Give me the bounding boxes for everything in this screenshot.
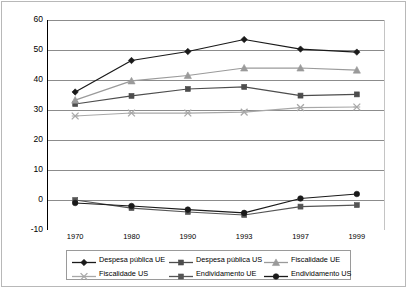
data-point-cross [128,110,135,117]
legend-marker-icon [168,268,194,279]
data-point-square [129,93,134,98]
data-point-cross [184,110,191,117]
data-point-circle [298,196,304,202]
series-line [75,87,357,104]
legend-item[interactable]: Fiscalidade UE [263,252,348,267]
legend-marker-icon [71,254,97,265]
data-point-square [354,92,359,97]
legend-marker-icon [71,268,97,279]
x-axis-tick-label: 1970 [67,232,84,241]
series-4 [72,104,360,120]
series-2 [73,84,360,106]
data-point-square [298,204,303,209]
data-point-circle [185,207,191,213]
plot-area [47,20,385,230]
data-point-square [185,87,190,92]
series-line [75,107,357,116]
data-point-cross [81,273,88,280]
legend-marker-icon [263,268,289,279]
y-axis-tick-label: 20 [34,135,43,144]
legend-item[interactable]: Despesa pública US [168,252,263,267]
legend-item-label: Fiscalidade US [99,268,148,279]
legend-key-svg [263,271,289,282]
chart-legend: Despesa pública UEDespesa pública USFisc… [66,250,351,280]
legend-item-label: Endividamento US [291,268,351,279]
data-point-diamond [185,48,191,54]
legend-item[interactable]: Fiscalidade US [71,266,168,281]
x-axis-tick-label: 1980 [123,232,140,241]
x-axis-tick-label: 1990 [179,232,196,241]
legend-marker-icon [168,254,194,265]
legend-key-svg [168,271,194,282]
data-point-square [298,93,303,98]
data-point-cross [72,113,79,120]
legend-item-label: Fiscalidade UE [291,254,340,265]
legend-item-label: Despesa pública UE [99,254,165,265]
series-line [75,200,357,215]
series-line [75,40,357,93]
x-axis-tick-label: 1993 [236,232,253,241]
data-point-square [242,84,247,89]
data-point-diamond [128,57,134,63]
data-point-diamond [241,36,247,42]
y-axis-tick-label: 10 [34,165,43,174]
legend-marker-icon [263,254,289,265]
legend-row: Despesa pública UEDespesa pública USFisc… [67,252,350,267]
x-axis-tick-label: 1999 [348,232,365,241]
y-axis-tick-label: 60 [34,15,43,24]
legend-item[interactable]: Endividamento UE [168,266,263,281]
plot-svg [47,20,385,230]
series-5 [73,198,360,218]
legend-row: Fiscalidade USEndividamento UEEndividame… [67,266,350,281]
data-point-circle [241,210,247,216]
y-axis-tick-labels: 6050403020100-10 [0,0,43,250]
data-point-circle [72,200,78,206]
y-axis-tick-label: 30 [34,105,43,114]
legend-item[interactable]: Endividamento US [263,266,348,281]
x-axis-tick-labels: 197019801990199319971999 [47,232,385,246]
legend-item-label: Despesa pública US [196,254,262,265]
data-point-square [179,274,184,279]
y-axis-tick-label: 40 [34,75,43,84]
data-point-circle [354,191,360,197]
legend-item-label: Endividamento UE [196,268,256,279]
y-axis-tick-label: 0 [38,195,43,204]
y-axis-tick-label: -10 [31,225,43,234]
data-point-square [354,203,359,208]
y-axis-tick-label: 50 [34,45,43,54]
legend-key-svg [71,271,97,282]
legend-item[interactable]: Despesa pública UE [71,252,168,267]
series-6 [72,191,359,216]
data-point-cross [353,104,360,111]
x-axis-tick-label: 1997 [292,232,309,241]
data-point-circle [129,203,135,209]
chart-container: 6050403020100-10 19701980199019931997199… [0,0,407,288]
data-point-diamond [297,46,303,52]
data-point-diamond [81,259,87,265]
series-line [75,194,357,213]
data-point-circle [273,274,279,280]
data-point-square [179,260,184,265]
data-point-diamond [72,89,78,95]
